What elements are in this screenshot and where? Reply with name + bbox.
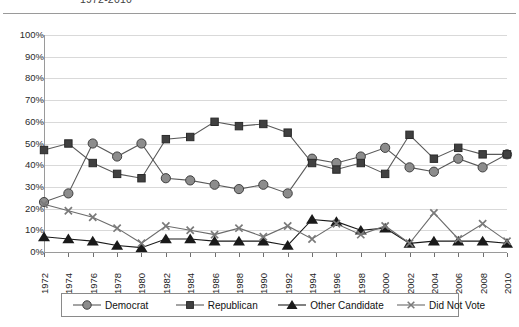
x-tick-label-1992: 1992	[283, 262, 294, 294]
data-point	[114, 225, 121, 232]
data-point	[186, 176, 195, 185]
x-tick-label-1986: 1986	[210, 262, 221, 294]
data-point	[405, 163, 414, 172]
x-tick-label-1996: 1996	[331, 262, 342, 294]
data-point	[235, 225, 242, 232]
x-axis-labels: 1972197419761978198019821984198619881990…	[44, 262, 507, 296]
data-point	[430, 155, 437, 162]
data-point	[65, 207, 72, 214]
data-point	[137, 139, 146, 148]
x-tick-label-1994: 1994	[307, 262, 318, 294]
data-point	[89, 214, 96, 221]
data-point	[454, 154, 463, 163]
x-tick-label-1976: 1976	[88, 262, 99, 294]
data-point	[381, 170, 388, 177]
y-tick-mark-100	[38, 35, 43, 36]
data-point	[88, 139, 97, 148]
data-point	[235, 122, 242, 129]
x-tick-mark-1994	[312, 253, 313, 257]
x-tick-label-1988: 1988	[234, 262, 245, 294]
chart-legend: DemocratRepublicanOther CandidateDid Not…	[61, 293, 459, 317]
data-point	[162, 135, 169, 142]
data-point	[138, 175, 145, 182]
chart-title: 1972-2010	[80, 0, 280, 5]
x-tick-mark-1974	[68, 253, 69, 257]
legend-label: Did Not Vote	[429, 300, 485, 311]
x-tick-mark-1976	[93, 253, 94, 257]
data-point	[479, 220, 486, 227]
data-point	[210, 180, 219, 189]
x-tick-label-1974: 1974	[63, 262, 74, 294]
y-tick-mark-20	[38, 209, 43, 210]
legend-item-other-candidate[interactable]: Other Candidate	[267, 294, 386, 316]
x-tick-mark-2006	[458, 253, 459, 257]
data-point	[89, 159, 96, 166]
data-point	[333, 166, 340, 173]
data-point	[478, 163, 487, 172]
y-tick-mark-10	[38, 230, 43, 231]
data-point	[260, 120, 267, 127]
x-tick-mark-2000	[385, 253, 386, 257]
x-tick-mark-1988	[239, 253, 240, 257]
legend-label: Republican	[208, 300, 258, 311]
legend-item-did-not-vote[interactable]: Did Not Vote	[386, 294, 458, 316]
x-tick-label-2002: 2002	[405, 262, 416, 294]
data-point	[306, 214, 318, 224]
x-tick-mark-1986	[215, 253, 216, 257]
y-axis-labels: 100%90%80%70%60%50%40%30%20%10%0%	[0, 35, 44, 253]
data-point	[113, 152, 122, 161]
data-point	[187, 133, 194, 140]
circle-marker	[72, 298, 102, 312]
series-did-not-vote	[40, 201, 510, 247]
x-tick-mark-2010	[507, 253, 508, 257]
x-tick-mark-1984	[190, 253, 191, 257]
series-democrat	[39, 139, 511, 207]
x-tick-mark-2004	[434, 253, 435, 257]
data-point	[406, 131, 413, 138]
x-tick-mark-2002	[410, 253, 411, 257]
y-tick-mark-40	[38, 165, 43, 166]
x-tick-label-1998: 1998	[356, 262, 367, 294]
x-axis-ticks	[44, 253, 507, 261]
data-point	[455, 144, 462, 151]
data-point	[211, 118, 218, 125]
data-point	[284, 222, 291, 229]
data-point	[430, 209, 437, 216]
y-tick-mark-70	[38, 100, 43, 101]
x-tick-mark-1980	[141, 253, 142, 257]
x-tick-mark-2008	[483, 253, 484, 257]
chart-page: 1972-2010 100%90%80%70%60%50%40%30%20%10…	[0, 0, 519, 327]
data-point	[65, 140, 72, 147]
legend-item-republican[interactable]: Republican	[165, 294, 268, 316]
data-point	[283, 189, 292, 198]
x-tick-mark-1996	[336, 253, 337, 257]
data-point	[503, 151, 510, 158]
data-point	[234, 184, 243, 193]
cross-marker	[396, 298, 426, 312]
data-point	[161, 174, 170, 183]
data-point	[40, 146, 47, 153]
x-tick-mark-1990	[263, 253, 264, 257]
data-point	[429, 167, 438, 176]
data-point	[357, 159, 364, 166]
x-tick-label-2008: 2008	[478, 262, 489, 294]
x-tick-mark-1992	[288, 253, 289, 257]
data-point	[479, 151, 486, 158]
x-tick-label-2006: 2006	[453, 262, 464, 294]
x-tick-label-2004: 2004	[429, 262, 440, 294]
x-tick-label-1980: 1980	[136, 262, 147, 294]
chart-series-layer	[44, 35, 507, 252]
x-tick-label-1984: 1984	[185, 262, 196, 294]
y-tick-mark-30	[38, 187, 43, 188]
data-point	[308, 159, 315, 166]
x-tick-mark-1972	[44, 253, 45, 257]
y-tick-mark-0	[38, 252, 43, 253]
legend-item-democrat[interactable]: Democrat	[62, 294, 165, 316]
x-tick-label-2000: 2000	[380, 262, 391, 294]
data-point	[284, 129, 291, 136]
legend-label: Other Candidate	[310, 300, 383, 311]
x-tick-label-1982: 1982	[161, 262, 172, 294]
x-tick-mark-1978	[117, 253, 118, 257]
y-tick-mark-90	[38, 57, 43, 58]
x-tick-label-2010: 2010	[502, 262, 513, 294]
